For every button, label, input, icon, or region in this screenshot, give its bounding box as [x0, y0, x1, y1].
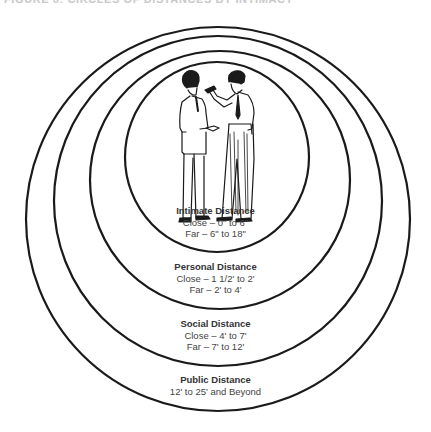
zone-title: Personal Distance: [0, 261, 431, 273]
zone-range-close: Close – 0" to 6": [0, 217, 431, 229]
two-men-illustration-icon: [179, 71, 254, 222]
zone-range: 12' to 25' and Beyond: [0, 386, 431, 398]
left-man-figure: [179, 71, 219, 222]
zone-public-label: Public Distance 12' to 25' and Beyond: [0, 374, 431, 397]
zone-title: Intimate Distance: [0, 205, 431, 217]
zone-range-close: Close – 1 1/2' to 2': [0, 273, 431, 285]
zone-range-far: Far – 2' to 4': [0, 284, 431, 296]
zone-range-far: Far – 7' to 12': [0, 341, 431, 353]
right-man-figure: [205, 71, 254, 222]
zone-personal-label: Personal Distance Close – 1 1/2' to 2' F…: [0, 261, 431, 296]
ring-social: [54, 36, 382, 366]
zone-social-label: Social Distance Close – 4' to 7' Far – 7…: [0, 318, 431, 353]
zone-range-far: Far – 6" to 18": [0, 228, 431, 240]
zone-intimate-label: Intimate Distance Close – 0" to 6" Far –…: [0, 205, 431, 240]
zone-title: Social Distance: [0, 318, 431, 330]
zone-title: Public Distance: [0, 374, 431, 386]
zone-range-close: Close – 4' to 7': [0, 330, 431, 342]
